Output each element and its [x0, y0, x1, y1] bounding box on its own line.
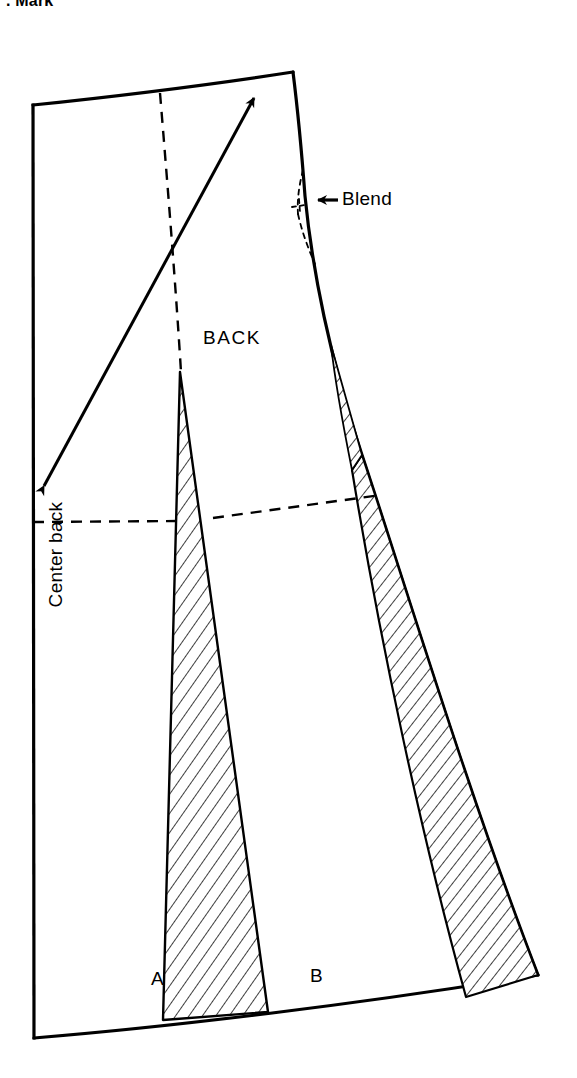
center-back-label: Center back: [46, 495, 65, 615]
clipped-caption-text: . Mark: [6, 0, 53, 9]
back-piece-label: BACK: [203, 328, 261, 347]
blend-label: Blend: [342, 189, 392, 208]
dart-marker-a-label: A: [151, 969, 164, 988]
dart-marker-b-label: B: [310, 966, 323, 985]
center-back-edge: [33, 105, 34, 1038]
pattern-diagram-figure: . Mark Blend BACK Center back A B: [0, 0, 577, 1078]
pattern-drawing: [0, 0, 577, 1078]
